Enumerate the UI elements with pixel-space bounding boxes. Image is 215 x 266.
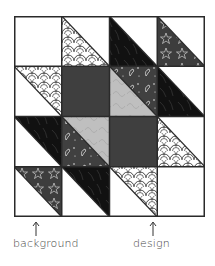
quilt-cell-r0c1 bbox=[62, 16, 110, 66]
quilt-cell-r3c3 bbox=[157, 167, 205, 217]
quilt-cell-r3c2 bbox=[110, 167, 158, 217]
design-label: design bbox=[133, 237, 170, 250]
quilt-cell-r2c0 bbox=[14, 117, 62, 167]
quilt-block-grid bbox=[14, 16, 205, 217]
quilt-cell-r0c2 bbox=[110, 16, 158, 66]
background-label: background bbox=[13, 237, 79, 250]
quilt-cell-r0c0 bbox=[14, 16, 62, 66]
quilt-cell-r1c1 bbox=[62, 66, 110, 116]
up-arrow-icon bbox=[31, 221, 41, 237]
quilt-cell-r1c0 bbox=[14, 66, 62, 116]
up-arrow-icon bbox=[148, 221, 158, 237]
quilt-cell-r1c3 bbox=[157, 66, 205, 116]
quilt-cell-r0c3 bbox=[157, 16, 205, 66]
quilt-cell-r2c2 bbox=[110, 117, 158, 167]
quilt-cell-r2c3 bbox=[157, 117, 205, 167]
quilt-cell-r1c2 bbox=[110, 66, 158, 116]
quilt-cell-r3c1 bbox=[62, 167, 110, 217]
quilt-cell-r3c0 bbox=[14, 167, 62, 217]
quilt-cell-r2c1 bbox=[62, 117, 110, 167]
quilt-block-diagram bbox=[14, 16, 205, 217]
